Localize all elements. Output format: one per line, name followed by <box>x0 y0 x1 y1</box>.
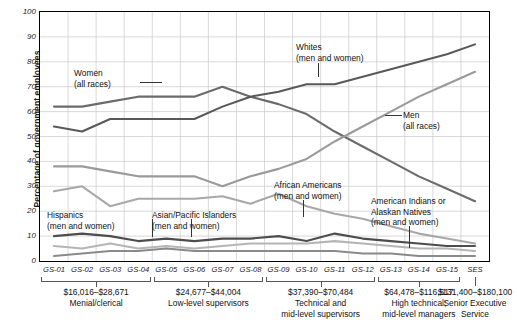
group-desc-0-0: Menial/clerical <box>36 298 156 309</box>
group-desc-4-1: Service <box>415 309 517 320</box>
group-tick-4 <box>475 277 476 286</box>
men-label-line-1: Men <box>403 110 440 121</box>
whites-label-line-2: (men and women) <box>296 53 364 64</box>
american-indians-label-line-1: American Indians or <box>371 196 445 207</box>
y-tick-70: 70 <box>8 82 36 91</box>
women-label: Women(all races) <box>74 68 111 89</box>
whites-label-line-1: Whites <box>296 42 364 53</box>
hispanics-label-line-2: (men and women) <box>47 221 115 232</box>
american-indians-label-leader <box>409 226 410 248</box>
women-label-leader <box>140 82 162 83</box>
american-indians-label-line-2: Alaskan Natives <box>371 207 445 218</box>
y-tick-40: 40 <box>8 156 36 165</box>
men-label-line-2: (all races) <box>403 121 440 132</box>
y-tick-80: 80 <box>8 57 36 66</box>
whites-label: Whites(men and women) <box>296 42 364 63</box>
hispanics-label-line-1: Hispanics <box>47 210 115 221</box>
y-tick-20: 20 <box>8 206 36 215</box>
y-tick-30: 30 <box>8 181 36 190</box>
group-amount-1: $24,677–$44,004 <box>148 287 268 298</box>
asian-pacific-label-leader <box>191 219 192 237</box>
group-desc-4-0: Senior Executive <box>415 298 517 309</box>
men-label: Men(all races) <box>403 110 440 131</box>
y-tick-100: 100 <box>8 7 36 16</box>
african-americans-label-leader <box>303 200 304 217</box>
group-amount-4: $131,400–$180,100 <box>415 287 517 298</box>
group-desc-1-0: Low-level supervisors <box>148 298 268 309</box>
y-tick-0: 0 <box>8 256 36 265</box>
hispanics-label: Hispanics(men and women) <box>47 210 115 231</box>
asian-pacific-label-line-2: (men and women) <box>152 221 236 232</box>
whites-label-leader <box>318 63 319 77</box>
american-indians-label: American Indians orAlaskan Natives(men a… <box>371 196 445 228</box>
african-americans-label: African Americans(men and women) <box>274 180 342 201</box>
group-label-1: $24,677–$44,004Low-level supervisors <box>148 287 268 309</box>
asian-pacific-label-line-1: Asian/Pacific Islanders <box>152 210 236 221</box>
group-amount-0: $16,016–$28,671 <box>36 287 156 298</box>
group-label-4: $131,400–$180,100Senior ExecutiveService <box>415 287 517 320</box>
african-americans-label-line-1: African Americans <box>274 180 342 191</box>
y-axis-ticks: 1009080706050403020100 <box>6 0 36 336</box>
group-label-0: $16,016–$28,671Menial/clerical <box>36 287 156 309</box>
y-tick-60: 60 <box>8 107 36 116</box>
men-label-leader <box>385 115 402 116</box>
y-tick-10: 10 <box>8 231 36 240</box>
y-tick-50: 50 <box>8 132 36 141</box>
women-label-line-1: Women <box>74 68 111 79</box>
african-americans-label-line-2: (men and women) <box>274 191 342 202</box>
asian-pacific-label: Asian/Pacific Islanders(men and women) <box>152 210 236 231</box>
women-label-line-2: (all races) <box>74 79 111 90</box>
x-tick-ses: SES <box>455 265 495 274</box>
y-tick-90: 90 <box>8 32 36 41</box>
